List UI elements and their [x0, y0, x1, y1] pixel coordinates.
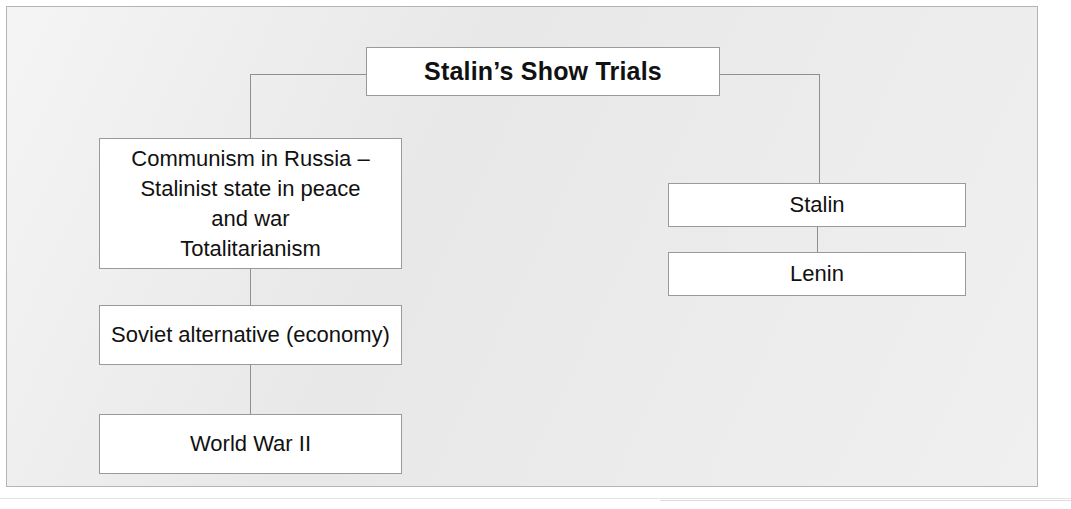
connector-root-to-communism-horizontal [250, 74, 367, 75]
node-wwii-label: World War II [100, 431, 401, 457]
node-lenin[interactable]: Lenin [668, 252, 966, 296]
connector-communism-to-soviet [250, 268, 251, 306]
scan-artifact-line [0, 498, 1071, 499]
connector-soviet-to-wwii [250, 364, 251, 415]
node-root-label: Stalin’s Show Trials [367, 57, 719, 86]
diagram-frame: Stalin’s Show Trials Communism in Russia… [6, 6, 1038, 487]
node-lenin-label: Lenin [669, 261, 965, 287]
scan-artifact-line-right [660, 500, 1071, 501]
node-stalins-show-trials[interactable]: Stalin’s Show Trials [366, 47, 720, 96]
node-communism-in-russia[interactable]: Communism in Russia – Stalinist state in… [99, 138, 402, 269]
connector-root-to-communism-vertical [250, 74, 251, 139]
node-soviet-alternative-economy[interactable]: Soviet alternative (economy) [99, 305, 402, 365]
connector-root-to-stalin-horizontal [719, 74, 820, 75]
node-world-war-ii[interactable]: World War II [99, 414, 402, 474]
node-communism-label: Communism in Russia – Stalinist state in… [100, 144, 401, 264]
node-stalin-label: Stalin [669, 192, 965, 218]
node-stalin[interactable]: Stalin [668, 183, 966, 227]
node-soviet-label: Soviet alternative (economy) [100, 322, 401, 348]
connector-stalin-to-lenin [817, 226, 818, 253]
connector-root-to-stalin-vertical [819, 74, 820, 184]
